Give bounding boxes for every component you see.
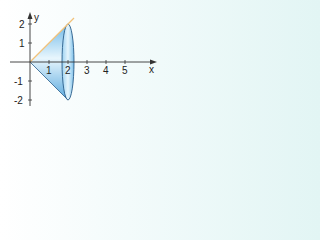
x-tick-label-3: 3	[84, 65, 90, 76]
y-tick-label-1: 1	[19, 38, 25, 49]
x-tick-label-4: 4	[103, 65, 109, 76]
x-tick-label-5: 5	[122, 65, 128, 76]
x-tick-label-2: 2	[65, 65, 71, 76]
y-tick-label-neg1: -1	[14, 76, 23, 87]
y-axis-arrow-icon	[28, 12, 33, 19]
x-axis-label: x	[149, 64, 154, 75]
y-tick-label-2: 2	[19, 19, 25, 30]
x-tick-label-1: 1	[46, 65, 52, 76]
cone-diagram: 1 2 3 4 5 x 2 1 -1 -2 y	[0, 0, 165, 108]
y-axis-label: y	[34, 12, 39, 23]
y-tick-label-neg2: -2	[14, 95, 23, 106]
